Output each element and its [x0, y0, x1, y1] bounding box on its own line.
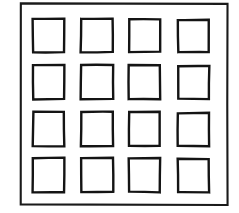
- cell-r2c2: [81, 65, 114, 99]
- cell-r4c3: [129, 158, 160, 192]
- cell-r3c3: [129, 112, 160, 146]
- figure-canvas: 4 by 4 grid of squares Line drawing of a…: [0, 0, 239, 213]
- cell-r2c1: [33, 65, 64, 100]
- cell-r4c1: [33, 158, 65, 193]
- cell-r3c2: [81, 112, 113, 147]
- cell-r3c1: [33, 112, 65, 147]
- grid-figure: 4 by 4 grid of squares Line drawing of a…: [0, 0, 239, 213]
- cell-r2c4: [178, 66, 209, 99]
- cell-r1c3: [129, 19, 160, 52]
- cell-r4c2: [81, 158, 113, 192]
- cell-r3c4: [178, 113, 210, 146]
- cell-r1c4: [178, 20, 209, 52]
- cell-r1c2: [81, 19, 113, 53]
- cell-r2c3: [129, 65, 161, 99]
- cell-r4c4: [178, 159, 209, 193]
- cell-r1c1: [33, 19, 65, 53]
